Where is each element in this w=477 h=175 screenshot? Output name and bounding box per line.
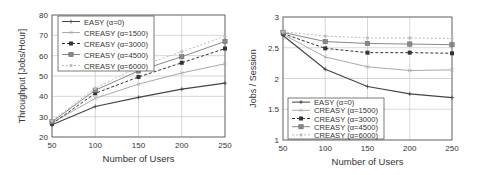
x-tick-label: 150 [132,141,146,150]
y-tick-label: 70 [39,31,48,40]
y-axis-label: Throughput [Jobs/Hour] [17,29,27,124]
y-tick-label: 80 [39,11,48,20]
x-tick-label: 250 [445,144,459,153]
y-tick-label: 3 [275,13,280,22]
x-axis-label: Number of Users [103,153,175,164]
y-axis-label: Jobs / Session [248,49,258,108]
x-tick-label: 200 [175,141,189,150]
x-axis-label: Number of Users [332,156,404,167]
y-tick-label: 1 [275,136,280,145]
y-tick-label: 40 [39,92,48,101]
y-tick-label: 1.5 [268,105,280,114]
x-tick-label: 100 [89,141,103,150]
chart-figure: 5010015020025020304050607080Number of Us… [0,0,477,175]
legend-entry: CREASY (α=1500) [84,29,148,38]
legend-entry: CREASY (α=4500) [84,51,148,60]
x-tick-label: 200 [403,144,417,153]
legend-entry: CREASY (α=6000) [84,62,148,71]
legend-entry: EASY (α=0) [84,18,125,27]
legend: EASY (α=0)CREASY (α=1500)CREASY (α=3000)… [288,98,384,140]
x-tick-label: 250 [218,141,232,150]
x-tick-label: 50 [279,144,288,153]
x-tick-label: 150 [361,144,375,153]
y-tick-label: 30 [39,113,48,122]
x-tick-label: 100 [319,144,333,153]
y-tick-label: 2 [275,75,280,84]
legend-entry: CREASY (α=6000) [314,131,378,140]
legend: EASY (α=0)CREASY (α=1500)CREASY (α=3000)… [58,16,154,71]
chart-panel-2: 5010015020025011.522.53Number of UsersJo… [248,13,459,167]
chart-panel-1: 5010015020025020304050607080Number of Us… [17,11,232,164]
y-tick-label: 50 [39,72,48,81]
y-tick-label: 2.5 [268,44,280,53]
y-tick-label: 20 [39,133,48,142]
x-tick-label: 50 [48,141,57,150]
legend-entry: CREASY (α=3000) [84,40,148,49]
y-tick-label: 60 [39,52,48,61]
